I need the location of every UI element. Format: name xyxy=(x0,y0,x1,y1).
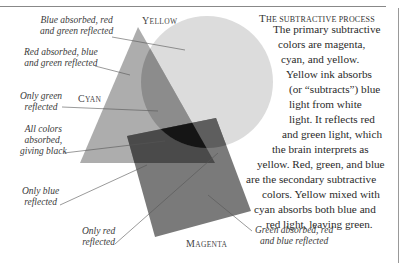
article-line: are the secondary subtractive xyxy=(246,172,376,187)
article-line: light from white xyxy=(289,97,362,112)
callout-only-blue: Only blue reflected xyxy=(22,186,59,208)
article-line: (or “subtracts”) blue xyxy=(289,82,380,97)
article-line: cyan, and yellow. xyxy=(281,52,359,67)
callout-blue-absorbed: Blue absorbed, red and green reflected xyxy=(40,15,113,37)
callout-only-green: Only green reflected xyxy=(20,91,62,113)
callout-red-absorbed: Red absorbed, blue and green reflected xyxy=(24,47,98,69)
article-line: colors. Yellow mixed with xyxy=(262,187,380,202)
article-line: and green light, which xyxy=(282,127,382,142)
article-line: light. It reflects red xyxy=(289,112,375,127)
article-line: colors are magenta, xyxy=(278,37,365,52)
callout-only-red: Only red reflected xyxy=(82,226,115,248)
article-line: The primary subtractive xyxy=(273,22,380,37)
cyan-label: Cyan xyxy=(78,93,101,104)
article-line: Yellow ink absorbs xyxy=(286,67,372,82)
magenta-label: Magenta xyxy=(186,238,227,249)
article-line: cyan absorbs both blue and xyxy=(254,202,376,217)
article-line: the brain interprets as xyxy=(272,142,369,157)
yellow-label: Yellow xyxy=(142,15,177,26)
article-line: red light, leaving green. xyxy=(266,217,373,232)
article-line: yellow. Red, green, and blue xyxy=(257,157,385,172)
callout-all-absorbed: All colors absorbed, giving black xyxy=(20,124,67,157)
